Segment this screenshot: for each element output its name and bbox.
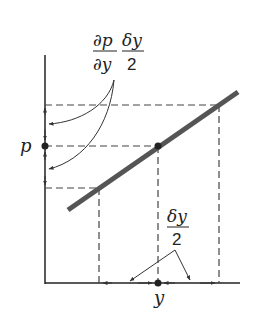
gradient-leader-arrows: [49, 80, 114, 169]
half-dy-leader-arrows: [130, 250, 190, 281]
y-axis-label: y: [153, 287, 165, 308]
p-axis-point: [42, 143, 49, 150]
p-axis-label: p: [20, 135, 32, 156]
gradient-numerator: ∂p: [93, 30, 113, 50]
bottom-half-dy-label: δy 2: [167, 206, 189, 249]
half-dy-denominator: 2: [127, 55, 136, 74]
half-dy-numerator: δy: [122, 30, 142, 50]
gradient-label: ∂p ∂y δy 2: [93, 30, 144, 74]
bottom-half-dy-denominator: 2: [172, 230, 181, 249]
y-axis-point: [155, 280, 162, 287]
pressure-gradient-diagram: ∂p ∂y δy 2 δy 2 p y: [0, 0, 258, 326]
center-point: [155, 143, 162, 150]
pressure-line: [68, 92, 238, 210]
gradient-denominator: ∂y: [93, 54, 112, 74]
dashed-guides: [45, 105, 219, 283]
bottom-half-dy-numerator: δy: [167, 206, 187, 226]
